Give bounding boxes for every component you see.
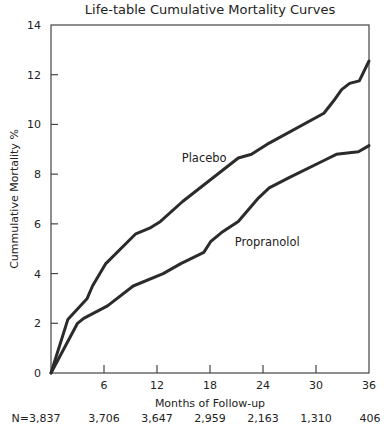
x-tick-label: 6 (101, 379, 108, 392)
at-risk-count: 1,310 (300, 412, 332, 425)
x-tick-label: 24 (256, 379, 270, 392)
y-tick-label: 10 (27, 118, 41, 131)
series-lines (51, 61, 369, 373)
y-tick-label: 14 (27, 19, 41, 32)
y-tick-label: 6 (34, 218, 41, 231)
plot-axes: 0246810121461218243036 (27, 19, 376, 392)
x-tick-label: 30 (309, 379, 323, 392)
series-labels: PlaceboPropranolol (182, 151, 300, 250)
at-risk-count: N=3,837 (12, 412, 61, 425)
at-risk-count: 2,163 (247, 412, 279, 425)
y-tick-label: 12 (27, 69, 41, 82)
y-tick-label: 4 (34, 268, 41, 281)
at-risk-count: 3,706 (88, 412, 120, 425)
series-line-placebo (51, 61, 369, 373)
x-tick-label: 18 (203, 379, 217, 392)
y-tick-label: 8 (34, 168, 41, 181)
plot-frame (51, 25, 369, 373)
x-tick-label: 36 (362, 379, 376, 392)
series-label-propranolol: Propranolol (235, 235, 300, 249)
at-risk-count: 406 (360, 412, 381, 425)
y-tick-label: 2 (34, 317, 41, 330)
mortality-chart: 0246810121461218243036 PlaceboPropranolo… (0, 0, 386, 434)
at-risk-count: 3,647 (141, 412, 173, 425)
x-tick-label: 12 (150, 379, 164, 392)
at-risk-row: N=3,8373,7063,6472,9592,1631,310406 (0, 412, 386, 428)
y-tick-label: 0 (34, 367, 41, 380)
series-label-placebo: Placebo (182, 151, 227, 165)
y-axis-title: Cummulative Mortality % (8, 129, 21, 269)
x-axis-title: Months of Follow-up (155, 397, 265, 410)
at-risk-count: 2,959 (194, 412, 226, 425)
